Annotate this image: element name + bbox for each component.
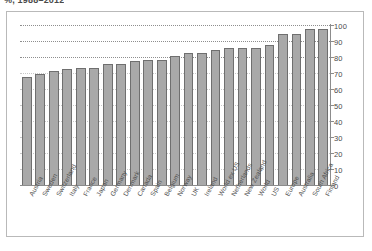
bar-belgium[interactable] (155, 26, 168, 186)
bar-rect (76, 68, 86, 186)
x-label-slot: Finland (317, 188, 330, 248)
bar-switzerland[interactable] (47, 26, 60, 186)
y-axis-label-50: 50 (334, 102, 356, 111)
y-axis-label-10: 10 (334, 166, 356, 175)
x-label-slot: Canada (128, 188, 141, 248)
bar-austria[interactable] (20, 26, 33, 186)
bar-europe[interactable] (276, 26, 289, 186)
x-label-slot: US (263, 188, 276, 248)
bar-spain[interactable] (141, 26, 154, 186)
chart-screenshot: %, 1988–2012 0102030405060708090100 Aust… (0, 0, 372, 251)
bar-world-ex-us[interactable] (209, 26, 222, 186)
bar-rect (157, 60, 167, 186)
bar-rect (89, 68, 99, 186)
x-label-slot: Belgium (155, 188, 168, 248)
bar-sweden[interactable] (33, 26, 46, 186)
y-axis-label-60: 60 (334, 86, 356, 95)
bar-rect (130, 61, 140, 186)
y-axis-label-40: 40 (334, 118, 356, 127)
bar-rect (305, 29, 315, 186)
y-axis-label-20: 20 (334, 150, 356, 159)
bar-rect (184, 53, 194, 186)
x-label-slot: France (74, 188, 87, 248)
x-label-slot: Switzerland (47, 188, 60, 248)
chart-title: %, 1988–2012 (4, 0, 64, 7)
x-label-slot: Norway (168, 188, 181, 248)
bar-series (20, 26, 330, 186)
bar-rect (197, 53, 207, 186)
bar-rect (211, 50, 221, 186)
x-axis-labels: AustriaSwedenSwitzerlandItalyFranceJapan… (20, 188, 330, 248)
x-label-slot: Austria (20, 188, 33, 248)
x-label-slot: Ireland (195, 188, 208, 248)
bar-japan[interactable] (87, 26, 100, 186)
bar-rect (278, 34, 288, 186)
y-axis-label-70: 70 (334, 70, 356, 79)
x-label-slot: South Africa (303, 188, 316, 248)
bar-ireland[interactable] (195, 26, 208, 186)
bar-rect (292, 34, 302, 186)
bar-south-africa[interactable] (303, 26, 316, 186)
x-label-slot: Europe (276, 188, 289, 248)
bar-canada[interactable] (128, 26, 141, 186)
x-label-slot: Sweden (33, 188, 46, 248)
x-label-slot: Denmark (114, 188, 127, 248)
bar-italy[interactable] (60, 26, 73, 186)
x-label-slot: World ex US (209, 188, 222, 248)
x-label-slot: Italy (60, 188, 73, 248)
bar-rect (49, 71, 59, 186)
x-label-slot: Netherlands (222, 188, 235, 248)
x-label-slot: Spain (141, 188, 154, 248)
bar-norway[interactable] (168, 26, 181, 186)
y-axis-label-100: 100 (334, 22, 356, 31)
x-label-slot: Germany (101, 188, 114, 248)
bar-rect (116, 64, 126, 186)
bar-france[interactable] (74, 26, 87, 186)
bar-australia[interactable] (290, 26, 303, 186)
y-axis-label-90: 90 (334, 38, 356, 47)
y-axis-label-80: 80 (334, 54, 356, 63)
bar-rect (103, 64, 113, 186)
bar-uk[interactable] (182, 26, 195, 186)
y-axis-label-30: 30 (334, 134, 356, 143)
bar-rect (143, 60, 153, 186)
bar-denmark[interactable] (114, 26, 127, 186)
bar-rect (22, 77, 32, 186)
bar-rect (170, 56, 180, 186)
x-label-slot: New Zealand (236, 188, 249, 248)
bar-germany[interactable] (101, 26, 114, 186)
plot-area (20, 26, 330, 186)
x-label-slot: Australia (290, 188, 303, 248)
x-label-slot: World (249, 188, 262, 248)
bar-rect (35, 74, 45, 186)
x-label-slot: Japan (87, 188, 100, 248)
x-label-slot: UK (182, 188, 195, 248)
